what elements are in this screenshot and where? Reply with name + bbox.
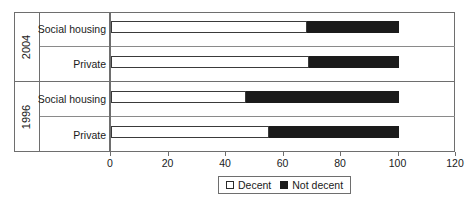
x-tick-label-0: 0 [107,157,113,169]
x-axis: 020406080100120 [110,152,455,153]
x-tick-40 [225,152,226,156]
x-tick-label-40: 40 [219,157,231,169]
x-tick-60 [283,152,284,156]
x-tick-label-100: 100 [389,157,407,169]
x-tick-0 [110,152,111,156]
year-label-1996: 1996 [20,105,32,129]
x-tick-label-20: 20 [162,157,174,169]
x-tick-100 [398,152,399,156]
category-cell-1996-private: Private [40,117,109,152]
x-tick-120 [455,152,456,156]
x-tick-label-60: 60 [277,157,289,169]
row-divider-group [111,81,455,82]
bar-segment-decent [111,56,309,68]
x-tick-label-80: 80 [334,157,346,169]
row-divider-3 [111,116,455,117]
x-tick-20 [168,152,169,156]
bar-segment-not-decent [269,126,398,138]
legend-item-not-decent: Not decent [280,179,343,191]
bar-2004-social-housing [111,21,399,33]
category-label-social-housing-1996: Social housing [38,93,106,105]
category-label-social-housing-2004: Social housing [38,23,106,35]
bar-1996-social-housing [111,91,399,103]
bar-1996-private [111,126,399,138]
year-group-1996: 1996 [14,82,39,152]
year-axis-column: 2004 1996 [14,12,40,152]
black-square-icon [280,181,288,189]
x-tick-80 [340,152,341,156]
bar-segment-decent [111,21,307,33]
category-label-private-1996: Private [73,129,106,141]
category-cell-2004-private: Private [40,47,109,82]
bar-segment-decent [111,91,246,103]
plot-area [110,12,455,152]
legend-label-not-decent: Not decent [292,179,343,191]
legend-label-decent: Decent [238,179,271,191]
category-label-private-2004: Private [73,58,106,70]
bar-segment-not-decent [309,56,398,68]
bar-segment-not-decent [246,91,398,103]
category-cell-2004-social-housing: Social housing [40,12,109,47]
x-tick-label-120: 120 [446,157,464,169]
chart-root: 2004 1996 Social housing Private Social … [0,0,474,207]
white-square-icon [226,181,234,189]
row-divider-1 [111,46,455,47]
bar-2004-private [111,56,399,68]
category-cell-1996-social-housing: Social housing [40,82,109,117]
year-label-2004: 2004 [20,34,32,58]
year-group-2004: 2004 [14,12,39,82]
bar-segment-not-decent [307,21,399,33]
chart-legend: Decent Not decent [218,176,351,194]
category-axis-column: Social housing Private Social housing Pr… [40,12,110,152]
legend-item-decent: Decent [226,179,271,191]
bar-segment-decent [111,126,269,138]
